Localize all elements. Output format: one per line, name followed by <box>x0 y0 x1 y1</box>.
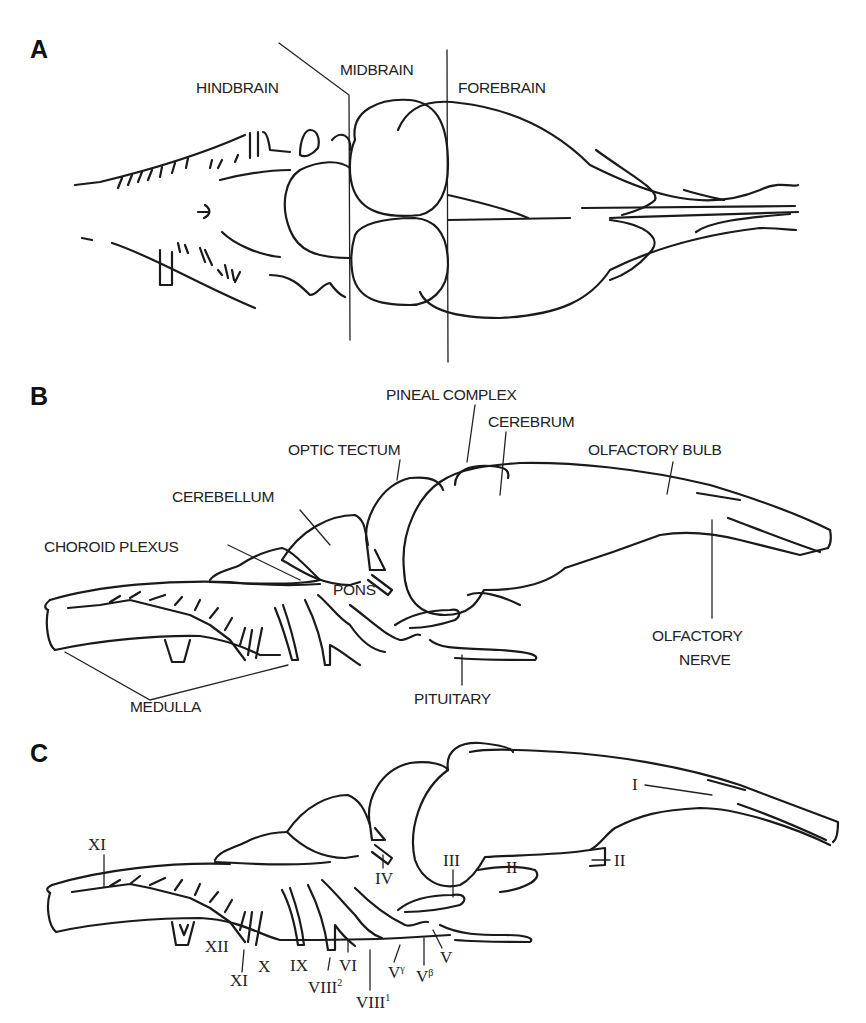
c-nerve-ii-stalk <box>590 848 605 866</box>
choroid-plexus-outline <box>210 548 320 580</box>
hemisphere-inner-lower <box>610 220 655 280</box>
label-pituitary: PITUITARY <box>414 690 491 707</box>
c-cerebellum-outline <box>287 795 370 832</box>
label-nerve-viii-2-base: VIII <box>308 978 338 997</box>
label-nerve-viii-1-base: VIII <box>356 993 386 1012</box>
label-choroid-plexus: CHOROID PLEXUS <box>44 538 178 555</box>
c-medulla-front <box>47 885 52 893</box>
c-nerve-root-vi <box>322 880 382 938</box>
panel-letter-c: C <box>30 739 48 767</box>
nerve-roots-bottom <box>160 243 240 285</box>
c-choroid-outline <box>215 832 287 860</box>
label-olfactory-nerve-line2: NERVE <box>679 651 731 668</box>
c-cerebellum-lower <box>287 832 358 858</box>
label-nerve-viii-1-sup: 1 <box>385 992 390 1003</box>
leader-medulla <box>65 652 288 700</box>
medulla-inner-upper <box>220 170 290 180</box>
olfactory-bulb-inner <box>697 493 740 500</box>
hindbrain-midbrain-divider <box>279 43 350 340</box>
medulla-appendage <box>165 640 190 662</box>
label-nerve-xii: XII <box>205 937 229 956</box>
nerve-roots-top <box>118 132 290 188</box>
c-medulla-outline <box>52 864 230 885</box>
c-choroid-base <box>215 862 330 864</box>
olfactory-nerve-lines <box>728 518 820 552</box>
nerve-root-4 <box>350 605 420 640</box>
medulla-inner-lower <box>222 232 280 257</box>
c-medulla-nerve-fibers <box>72 876 262 945</box>
leader-optic-tectum <box>397 460 400 480</box>
label-nerve-viii-2-sup: 2 <box>337 977 342 988</box>
panel-a: A HINDBRAIN MIDBRAIN FOREBRAIN <box>30 35 798 362</box>
leader-nerve-v <box>433 930 442 948</box>
label-nerve-v-gamma-sup: γ <box>399 963 405 974</box>
c-cerebrum-outline <box>470 750 838 842</box>
olfactory-tract-top <box>582 206 795 208</box>
panel-c: C I II II III IV XI XII XI X IX VIII2 VI… <box>30 739 838 1012</box>
c-medulla-appendage <box>172 922 194 945</box>
leader-nerve-xi-bottom <box>242 950 244 972</box>
c-nerve-root-ix <box>282 888 304 945</box>
midbrain-forebrain-divider <box>447 50 448 362</box>
label-nerve-vi: VI <box>339 956 357 975</box>
medulla-front <box>45 600 50 610</box>
label-nerve-xi-top: XI <box>88 835 106 854</box>
label-medulla: MEDULLA <box>130 698 202 715</box>
brain-anatomy-figure: A HINDBRAIN MIDBRAIN FOREBRAIN <box>0 0 866 1023</box>
pituitary-outline <box>430 640 536 660</box>
label-cerebrum: CEREBRUM <box>488 413 574 430</box>
optic-lobe-upper <box>350 100 448 216</box>
label-nerve-x: X <box>258 957 270 976</box>
medulla-notch <box>198 205 209 218</box>
medulla-nerve-fibers <box>68 592 262 660</box>
forebrain-lower-outline <box>420 228 796 318</box>
nerve-root-1 <box>275 605 298 660</box>
label-hindbrain: HINDBRAIN <box>196 79 279 96</box>
panel-letter-a: A <box>30 35 48 63</box>
forebrain-midline <box>448 218 570 220</box>
medulla-outline <box>50 582 320 600</box>
c-optic-tectum-outline <box>369 762 448 825</box>
hypothalamus-outline <box>395 610 459 628</box>
medulla-lower <box>47 610 280 655</box>
leader-olfactory-bulb <box>667 462 673 494</box>
leader-pineal <box>467 405 475 462</box>
pineal-outline <box>455 466 508 485</box>
c-pineal-outline <box>448 743 513 770</box>
panel-letter-b: B <box>30 382 48 410</box>
optic-lobe-lower <box>351 218 448 305</box>
label-olfactory-nerve-line1: OLFACTORY <box>652 627 743 644</box>
label-nerve-iii: III <box>443 851 460 870</box>
nerve-root-block-top <box>300 130 319 156</box>
c-optic-tectum-stalk <box>370 825 392 864</box>
label-nerve-v-gamma-base: V <box>388 963 401 982</box>
panel-b: B PINEAL COMPLEX CEREBRUM OPTIC TECTUM O… <box>30 382 831 715</box>
label-pineal-complex: PINEAL COMPLEX <box>386 386 517 403</box>
forebrain-midline-upper <box>448 195 528 218</box>
label-nerve-v-beta: Vβ <box>416 967 433 986</box>
cerebellum-outline <box>282 515 368 560</box>
leader-nerve-viii-2 <box>328 958 330 970</box>
label-midbrain: MIDBRAIN <box>340 61 413 78</box>
c-pituitary-outline <box>440 925 531 942</box>
label-forebrain: FOREBRAIN <box>458 79 546 96</box>
label-nerve-v-beta-sup: β <box>428 967 433 978</box>
label-cerebellum: CEREBELLUM <box>172 488 274 505</box>
label-olfactory-bulb: OLFACTORY BULB <box>588 441 722 458</box>
label-nerve-viii-2: VIII2 <box>308 977 342 997</box>
label-nerve-iv: IV <box>375 869 394 888</box>
nerve-root-top-right <box>332 135 350 150</box>
nerve-root-bottom-right <box>270 275 345 297</box>
leader-nerve-v-gamma <box>394 945 400 962</box>
label-nerve-ii-outer: II <box>614 851 626 870</box>
label-nerve-xi-bottom: XI <box>230 971 248 990</box>
label-nerve-viii-1: VIII1 <box>356 992 390 1012</box>
label-optic-tectum: OPTIC TECTUM <box>288 441 400 458</box>
label-nerve-i: I <box>632 775 638 794</box>
c-hypothalamus-outline <box>398 895 464 912</box>
cerebellum-outline <box>285 162 350 258</box>
label-nerve-v-beta-base: V <box>416 967 429 986</box>
leader-nerve-i <box>645 785 712 795</box>
label-nerve-v: V <box>440 948 453 967</box>
label-nerve-v-gamma: Vγ <box>388 963 405 982</box>
